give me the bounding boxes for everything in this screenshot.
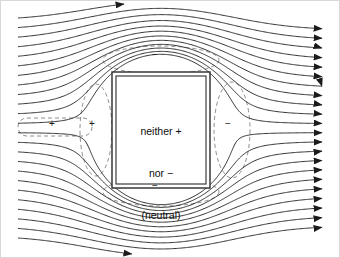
label-line-3: (neutral)	[112, 208, 210, 222]
field-line-diagram: neither + nor − (neutral) + + − − −	[0, 0, 340, 258]
induced-negative-right-sign: −	[222, 118, 234, 129]
induced-positive-left-stub-sign: +	[46, 118, 58, 129]
induced-positive-left-sign: +	[86, 118, 98, 129]
label-line-1: neither +	[112, 124, 210, 138]
induced-negative-top-sign: −	[149, 49, 161, 60]
label-line-2: nor −	[112, 166, 210, 180]
induced-negative-bottom-sign: −	[149, 180, 161, 191]
neutral-object-label: neither + nor − (neutral)	[112, 96, 210, 250]
